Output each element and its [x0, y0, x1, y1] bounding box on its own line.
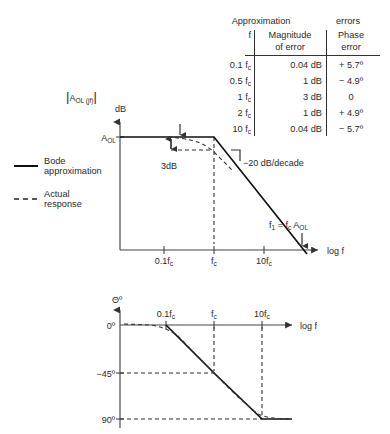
magnitude-slope-annotation: −20 dB/decade — [243, 158, 304, 168]
table-caption-errors: errors — [336, 16, 360, 26]
magnitude-f1-annotation: f1 = fc AOL — [269, 220, 308, 231]
legend-solid-label-line1: Bode — [44, 156, 65, 166]
table-cell-frequency-sub: c — [248, 64, 252, 71]
table-cell-phase: + 5.7º — [339, 60, 364, 70]
table-header-phase-line2: error — [341, 42, 360, 52]
legend-dashed-label-line1: Actual — [44, 189, 70, 199]
phase-x-tick-label-10fc: 10fc — [254, 309, 271, 320]
svg-text:0.5 fc: 0.5 fc — [230, 76, 252, 87]
magnitude-x-tick-label-fc: fc — [211, 256, 218, 267]
phase-x-axis-label: log f — [300, 321, 318, 331]
svg-text:10 fc: 10 fc — [232, 124, 251, 135]
legend: Bode approximation Actual response — [14, 156, 102, 209]
table-header-magnitude-line2: of error — [275, 42, 305, 52]
table-cell-phase: − 4.9º — [339, 76, 364, 86]
svg-text:2 fc: 2 fc — [237, 108, 251, 119]
table-cell-phase: − 5.7º — [339, 124, 364, 134]
table-cell-frequency-sub: c — [248, 112, 252, 119]
table-cell-magnitude: 1 dB — [303, 76, 322, 86]
magnitude-x-tick-label-0.1fc: 0.1fc — [155, 256, 174, 267]
table-cell-phase: 0 — [348, 92, 353, 102]
table-row: 0.1 fc 0.04 dB + 5.7º — [230, 60, 364, 71]
table-row: 10 fc 0.04 dB − 5.7º — [232, 124, 363, 135]
phase-x-tick-label-0.1fc: 0.1fc — [157, 309, 176, 320]
table-cell-magnitude: 3 dB — [303, 92, 322, 102]
table-cell-frequency-sub: c — [248, 80, 252, 87]
svg-text:0.1 fc: 0.1 fc — [230, 60, 252, 71]
table-cell-frequency: 0.5 f — [230, 76, 248, 86]
table-cell-frequency: 10 f — [232, 124, 248, 134]
magnitude-x-tick-label-10fc: 10fc — [256, 256, 273, 267]
phase-y-axis-label: Θº — [112, 295, 123, 305]
bode-plot-figure: Approximation errors f Magnitude of erro… — [0, 0, 390, 434]
figure-canvas: Approximation errors f Magnitude of erro… — [0, 0, 390, 434]
table-cell-frequency-sub: c — [248, 128, 252, 135]
table-header-phase-line1: Phase — [338, 30, 364, 40]
table-cell-frequency: 1 f — [237, 92, 248, 102]
legend-solid-label-line2: approximation — [44, 166, 102, 176]
magnitude-x-axis-label: log f — [327, 246, 345, 256]
table-cell-phase: + 4.9º — [339, 108, 364, 118]
approximation-errors-table: Approximation errors f Magnitude of erro… — [230, 16, 380, 136]
table-header-frequency: f — [248, 30, 251, 40]
table-cell-magnitude: 0.04 dB — [290, 60, 322, 70]
table-caption-approximation: Approximation — [232, 16, 291, 26]
table-header-magnitude-line1: Magnitude — [269, 30, 312, 40]
magnitude-actual-response-tail — [214, 152, 232, 170]
magnitude-y-axis-label: |AOL (jf)| — [66, 89, 97, 105]
table-cell-frequency-sub: c — [248, 96, 252, 103]
phase-x-tick-label-fc: fc — [211, 309, 218, 320]
svg-text:1 fc: 1 fc — [237, 92, 251, 103]
phase-plot: Θº log f 0º −45º 90º 0.1fc fc 10fc — [96, 295, 317, 428]
table-cell-magnitude: 1 dB — [303, 108, 322, 118]
table-cell-magnitude: 0.04 dB — [290, 124, 322, 134]
legend-dashed-label-line2: response — [44, 199, 82, 209]
phase-y-tick-label-minus90: 90º — [102, 415, 116, 425]
table-row: 2 fc 1 dB + 4.9º — [237, 108, 363, 119]
table-cell-frequency: 0.1 f — [230, 60, 248, 70]
phase-y-tick-label-0: 0º — [107, 321, 116, 331]
phase-actual-response-curve — [124, 324, 292, 419]
magnitude-3db-annotation: 3dB — [161, 161, 177, 171]
magnitude-y-axis-units: dB — [115, 104, 126, 114]
table-cell-frequency: 2 f — [237, 108, 248, 118]
phase-y-tick-label-minus45: −45º — [96, 369, 115, 379]
table-row: 0.5 fc 1 dB − 4.9º — [230, 76, 364, 87]
magnitude-y-tick-label-aol: AOL — [101, 133, 116, 144]
phase-bode-approximation-curve — [166, 325, 292, 419]
